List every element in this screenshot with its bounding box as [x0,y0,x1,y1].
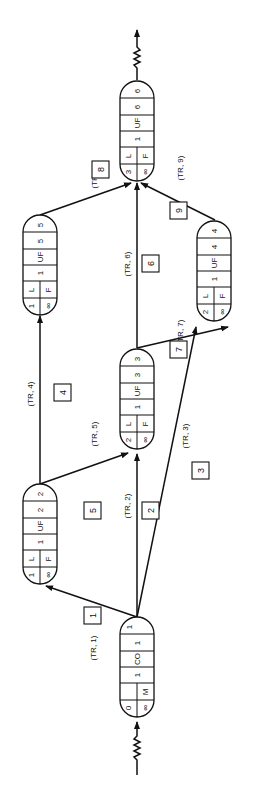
node-cell: 1 [125,624,134,629]
node-cell: 1 [36,270,45,275]
node-cell: 1 [133,672,142,677]
edge-label-9: (TR, 9) [176,155,185,180]
node-cell: ∞ [44,572,53,578]
node-cell: F [141,153,150,158]
node-cell: 3 [124,169,133,174]
svg-text:3: 3 [196,468,206,473]
edge-box-2: 2 [142,502,159,519]
node-cell: F [44,556,53,561]
node-cell: 1 [27,303,36,308]
network-diagram: (TR, 1) (TR, 2) (TR, 3) (TR, 4) (TR, 5) … [0,0,256,800]
node-cell: 1 [210,276,219,281]
edge-label-2: (TR, 2) [123,493,132,518]
edge-box-8: 8 [92,161,109,178]
edge-box-1: 1 [84,607,101,624]
node-cell: 6 [133,104,142,109]
node-cell: 4 [210,228,219,233]
edge-label-3: (TR, 3) [181,423,190,448]
node-cell: L [27,556,36,561]
node-cell: UF [133,118,142,129]
node-cell: 2 [36,491,45,496]
svg-text:8: 8 [96,167,106,172]
node-cell: ∞ [44,303,53,309]
node-5: 5 5 UF 1 L F 1 ∞ [23,215,57,315]
svg-text:2: 2 [146,508,156,513]
node-cell: ∞ [141,169,150,175]
node-2: 2 2 UF 1 L F 1 ∞ [23,484,57,584]
svg-text:4: 4 [58,390,68,395]
svg-text:5: 5 [88,508,98,513]
node-cell: 1 [36,539,45,544]
edge-box-6: 6 [142,255,159,272]
node-cell: 2 [201,309,210,314]
node-cell: L [124,153,133,158]
node-cell: 1 [27,572,36,577]
svg-text:9: 9 [174,208,184,213]
node-cell: 1 [133,404,142,409]
node-cell: 3 [133,356,142,361]
node-cell: 1 [133,640,142,645]
node-cell: 0 [124,705,133,710]
node-cell: ∞ [141,705,150,711]
edge-8 [40,183,131,215]
node-cell: L [27,287,36,292]
edge-box-3: 3 [192,462,209,479]
node-cell: L [124,421,133,426]
node-cell: 1 [133,136,142,141]
node-cell: 6 [133,88,142,93]
edge-label-6: (TR, 6) [123,251,132,276]
node-4: 4 4 UF 1 L F 2 ∞ [197,221,231,321]
node-cell: 3 [133,372,142,377]
node-cell: UF [133,386,142,397]
node-cell: F [218,293,227,298]
node-cell: F [44,287,53,292]
node-cell: 2 [36,507,45,512]
node-cell: UF [36,521,45,532]
node-cell: 2 [124,437,133,442]
edge-5 [40,453,128,484]
node-cell: 5 [36,222,45,227]
node-cell: UF [36,252,45,263]
edge-box-5: 5 [84,502,101,519]
node-6: 6 6 UF 1 L F 3 ∞ [120,81,154,181]
svg-text:1: 1 [88,613,98,618]
edge-label-1: (TR, 1) [89,635,98,660]
node-cell: 5 [36,238,45,243]
edge-label-4: (TR, 4) [26,381,35,406]
node-cell: 4 [210,244,219,249]
output-sink-icon [134,30,140,80]
edge-box-9: 9 [170,202,187,219]
svg-text:7: 7 [174,347,184,352]
node-1: 1 1 CO 1 M 0 ∞ [120,617,154,717]
svg-text:6: 6 [146,261,156,266]
node-cell: L [201,293,210,298]
node-cell: ∞ [218,309,227,315]
node-cell: ∞ [141,437,150,443]
edge-label-5: (TR, 5) [90,421,99,446]
node-cell: UF [210,258,219,269]
input-source-icon [134,722,140,775]
node-cell: M [141,688,150,695]
node-3: 3 3 UF 1 L F 2 ∞ [120,349,154,449]
edge-box-7: 7 [170,341,187,358]
edge-box-4: 4 [54,384,71,401]
node-cell: F [141,421,150,426]
node-cell: CO [133,653,142,665]
